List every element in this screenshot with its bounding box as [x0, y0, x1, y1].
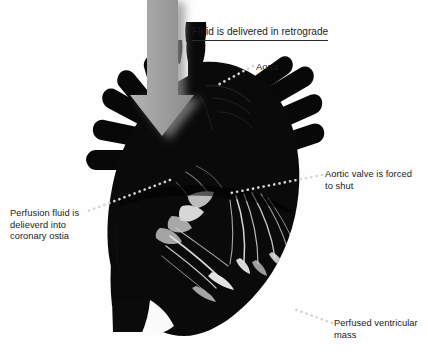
figure-title: Fluid is delivered in retrograde — [192, 25, 328, 41]
aorta-label: Aorta — [256, 62, 278, 74]
ventricular-mass-label: Perfused ventricular mass — [334, 318, 418, 341]
coronary-ostia-label: Perfusion fluid is delieverd into corona… — [10, 208, 79, 243]
descending-vessel — [111, 252, 150, 306]
aortic-valve-label: Aortic valve is forced to shut — [325, 169, 412, 192]
retrograde-cardioplegia-figure: Fluid is delivered in retrograde Aorta A… — [0, 0, 428, 355]
